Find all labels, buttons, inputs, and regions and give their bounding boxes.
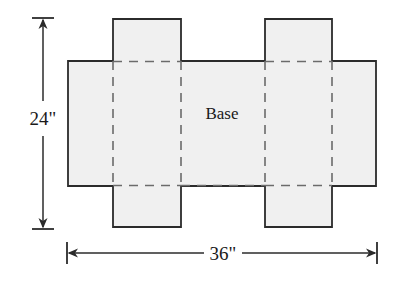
box-net-diagram: Base 24" xyxy=(0,0,397,283)
height-dimension-label: 24" xyxy=(30,108,57,129)
base-label: Base xyxy=(205,104,238,123)
figure-container: Base 24" xyxy=(0,0,397,283)
width-dimension-label: 36" xyxy=(210,243,237,264)
